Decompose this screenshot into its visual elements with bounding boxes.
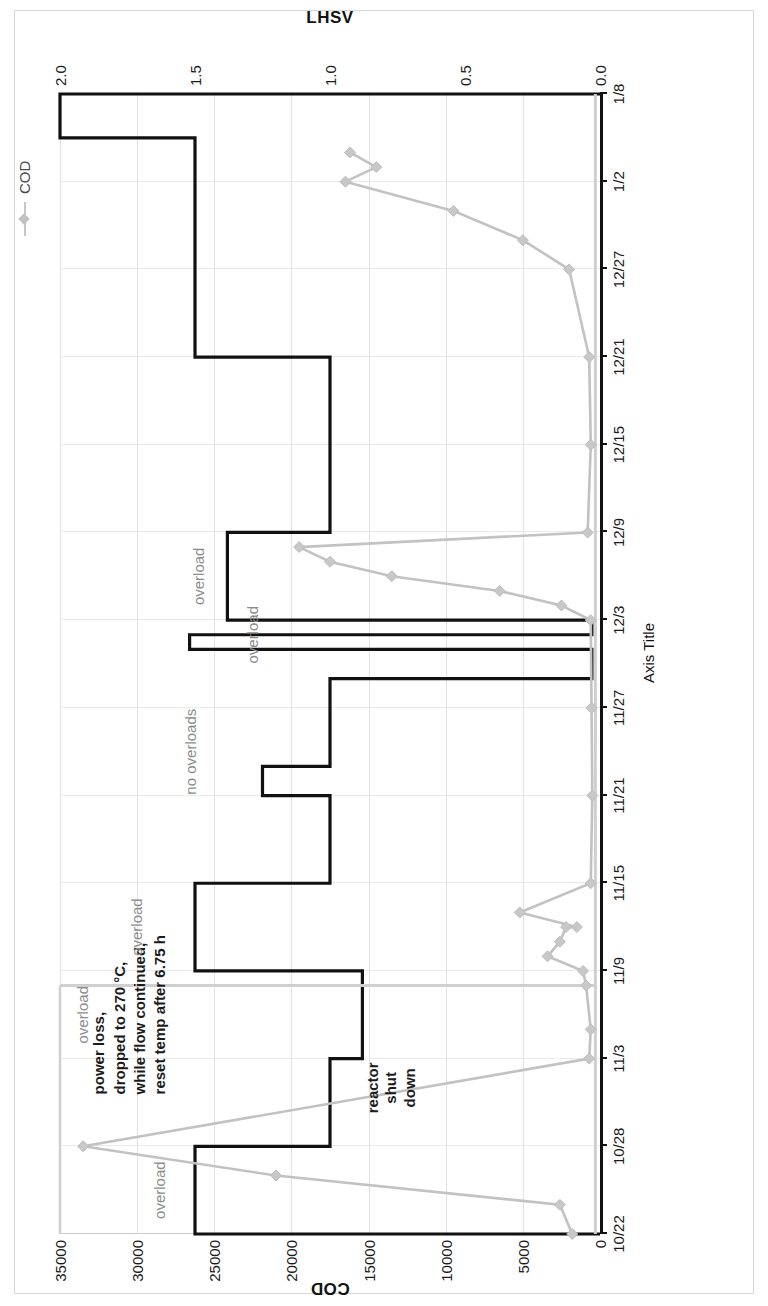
annotation-line: dropped to 270 °C, [109,935,129,1094]
x-axis-tick-label: 12/15 [610,426,627,464]
cod-data-point [294,542,305,553]
y-axis-left-tick-label: 30000 [129,1240,146,1282]
annotation-line: shut [382,1062,401,1113]
x-axis-tick-label: 11/15 [610,865,627,901]
x-axis-tick [600,443,607,445]
scanned-chart-page: COD Axis Title COD LHSV 0500010000150002… [0,0,768,1306]
cod-data-point [584,1053,595,1064]
x-axis-tick [600,969,607,971]
cod-data-point [582,527,593,538]
x-axis-tick [600,881,607,883]
annotation-powerloss: power loss,dropped to 270 °C,while flow … [89,935,170,1094]
annotation-overload-1: overload [150,1161,170,1219]
cod-data-point [567,1229,578,1240]
annotation-line: reset temp after 6.75 h [150,935,170,1094]
annotation-overload-3: overload [127,898,147,956]
x-axis-tick [600,530,607,532]
chart-canvas: COD Axis Title COD LHSV 0500010000150002… [0,0,768,1306]
x-axis-tick [600,794,607,796]
y-axis-right-tick-label: 1.0 [322,65,339,86]
cod-data-point [345,147,356,158]
y-axis-left-tick-label: 20000 [283,1240,300,1282]
x-axis-tick [600,1057,607,1059]
x-axis-tick [600,180,607,182]
annotation-reactor-shutdown: reactorshutdown [364,1062,420,1113]
x-axis-tick [600,267,607,269]
y-axis-left-tick-label: 15000 [360,1240,377,1282]
x-axis-tick-label: 12/21 [610,338,627,376]
y-axis-right-tick-label: 0.0 [592,65,609,86]
y-axis-left-tick-label: 5000 [514,1240,531,1273]
cod-data-point [78,1141,89,1152]
annotation-overload-4: overload [243,606,263,664]
rotated-chart-container: COD Axis Title COD LHSV 0500010000150002… [0,0,768,1306]
cod-data-point [340,176,351,187]
x-axis-tick [600,1144,607,1146]
y-axis-right-tick-label: 0.5 [457,65,474,86]
annotation-line: while flow continued, [129,935,149,1094]
x-axis-tick-label: 12/27 [610,251,627,289]
x-axis-tick-label: 11/21 [610,777,627,813]
cod-data-point [271,1170,282,1181]
x-axis-tick [600,355,607,357]
y-axis-left-tick-label: 35000 [52,1240,69,1282]
cod-data-point [554,1199,565,1210]
annotation-overload-5: overload [189,548,209,606]
x-axis-tick-label: 12/3 [610,606,627,635]
annotation-line: down [401,1062,420,1113]
y-axis-right-tick-label: 2.0 [52,65,69,86]
x-axis-tick-label: 11/27 [610,690,627,726]
x-axis-tick-label: 12/9 [610,518,627,547]
y-axis-left-tick-label: 10000 [437,1240,454,1282]
cod-data-point [494,585,505,596]
annotation-no-overloads: no overloads [181,709,201,795]
y-axis-right-tick-label: 1.5 [187,65,204,86]
x-axis-tick-label: 1/8 [610,84,627,105]
cod-data-point [386,571,397,582]
x-axis-tick-label: 11/9 [610,957,627,985]
cod-data-point [578,965,589,976]
x-axis-tick-label: 10/28 [610,1128,627,1166]
x-axis-tick [600,618,607,620]
y-axis-left-tick-label: 25000 [206,1240,223,1282]
cod-data-point [514,907,525,918]
y-axis-left-tick-label: 0 [592,1240,609,1248]
cod-data-point [581,980,592,991]
cod-data-point [325,556,336,567]
cod-data-point [556,600,567,611]
cod-data-point [571,922,582,933]
annotation-line: reactor [364,1062,383,1113]
x-axis-tick-label: 1/2 [610,171,627,192]
x-axis-tick [600,706,607,708]
cod-data-point [371,162,382,173]
x-axis-tick-label: 11/3 [610,1045,627,1073]
cod-data-point [584,352,595,363]
x-axis-tick-label: 10/22 [610,1215,627,1253]
x-axis-tick [600,92,607,94]
x-axis-tick [600,1232,607,1234]
cod-data-point [448,205,459,216]
annotation-line: power loss, [89,935,109,1094]
